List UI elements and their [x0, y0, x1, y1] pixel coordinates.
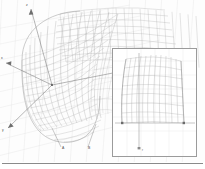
figure-container: z x y A B: [0, 0, 205, 169]
axis-label-x: x: [1, 57, 3, 60]
inset-panel[interactable]: r: [112, 48, 197, 157]
coordinate-axes: [6, 9, 128, 128]
axis-y-line: [8, 85, 52, 128]
axis-label-y: y: [2, 129, 4, 132]
inset-mesh-v-lines: [121, 57, 184, 123]
inset-axis-tick: [138, 147, 141, 149]
inset-svg: [113, 49, 196, 156]
bottom-horizontal-rule: [2, 163, 203, 164]
axis-z-line: [31, 9, 52, 85]
inset-patch-edge: [122, 59, 184, 123]
leader-label-a: A: [62, 147, 64, 150]
inset-grid: [113, 49, 196, 156]
leader-lines: [52, 124, 96, 147]
leader-label-b: B: [88, 147, 90, 150]
leader-line-b: [88, 124, 96, 147]
main-plot-area: z x y A B: [0, 0, 205, 162]
inset-axis-tick-label: r: [142, 149, 143, 152]
axis-origin-marker: [51, 84, 53, 86]
axis-label-z: z: [26, 4, 28, 7]
